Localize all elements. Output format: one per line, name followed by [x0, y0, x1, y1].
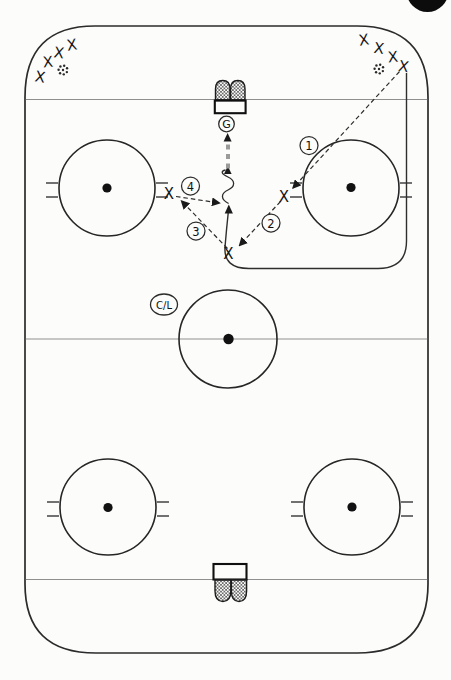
- skating-path: [225, 73, 407, 269]
- sequence-label-3: 3: [187, 222, 205, 240]
- goal-net-icon: [231, 81, 245, 101]
- player-x-mark: X: [279, 188, 289, 206]
- goal-net-icon: [216, 81, 231, 101]
- puck-piles: [57, 64, 384, 76]
- shot-arrow-icon: [224, 133, 232, 142]
- player-x-mark: X: [34, 67, 47, 86]
- puck-pile-icon: [57, 65, 68, 76]
- goal-top: [215, 81, 246, 114]
- sequence-label-4: 4: [182, 177, 200, 195]
- faceoff-hash-marks: [46, 183, 413, 516]
- goal-net-icon: [215, 580, 231, 602]
- goal-bottom: [214, 564, 247, 602]
- faceoff-dot: [102, 183, 111, 192]
- faceoff-dot: [103, 503, 112, 512]
- player-x-mark: X: [164, 185, 174, 203]
- player-x-mark: X: [373, 39, 385, 58]
- player-x-mark: X: [358, 30, 371, 49]
- scanned-page: G C/L XXXX XXXX XXX 1234: [0, 0, 451, 680]
- svg-text:4: 4: [187, 180, 194, 194]
- faceoff-circles: [46, 140, 413, 555]
- page-number-badge: [407, 0, 449, 12]
- goal-crease: [215, 101, 246, 114]
- faceoff-dot: [346, 183, 355, 192]
- goalie-label: G: [222, 118, 231, 131]
- drill-paths: [176, 72, 407, 269]
- goal-net-icon: [231, 580, 246, 602]
- player-x-mark: X: [397, 57, 410, 76]
- pass-line-3: [182, 201, 228, 249]
- center-line-label: C/L: [156, 300, 172, 311]
- player-x-mark: X: [53, 43, 65, 62]
- center-line-marker: C/L: [151, 294, 178, 315]
- skating-path-arrow-icon: [225, 205, 233, 214]
- center-dot: [223, 334, 233, 344]
- svg-text:2: 2: [267, 217, 274, 231]
- faceoff-dot: [347, 502, 356, 511]
- goalie-marker: G: [219, 116, 235, 132]
- player-x-mark: X: [66, 35, 79, 54]
- stickhandle-path: [222, 170, 233, 204]
- sequence-label-2: 2: [262, 214, 280, 232]
- hockey-drill-diagram: G C/L XXXX XXXX XXX 1234: [0, 0, 451, 680]
- pass-line-4: [176, 197, 220, 204]
- svg-text:1: 1: [305, 139, 312, 153]
- player-x-mark: X: [387, 48, 399, 67]
- sequence-label-1: 1: [300, 137, 318, 155]
- svg-text:3: 3: [192, 225, 199, 239]
- goal-crease: [214, 564, 247, 580]
- corner-players-left: XXXX: [34, 35, 79, 86]
- puck-pile-icon: [373, 64, 384, 75]
- player-x-mark: X: [223, 245, 233, 263]
- sequence-number-labels: 1234: [182, 137, 319, 241]
- pass-line-1: [293, 72, 400, 189]
